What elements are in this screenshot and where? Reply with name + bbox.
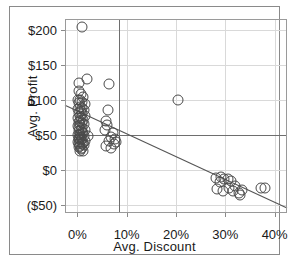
y-tick-label: ($50) [5, 197, 57, 212]
y-tick-label: $150 [5, 57, 57, 72]
x-tick-label: 40% [247, 227, 289, 242]
data-point [173, 94, 184, 105]
y-tick-mark [61, 65, 65, 66]
data-point [108, 139, 119, 150]
x-tick-mark [176, 213, 177, 217]
data-point [76, 22, 87, 33]
data-point [103, 79, 114, 90]
y-tick-label: $0 [5, 162, 57, 177]
y-tick-mark [61, 30, 65, 31]
y-tick-mark [61, 135, 65, 136]
y-tick-mark [61, 100, 65, 101]
y-tick-label: $50 [5, 127, 57, 142]
y-tick-label: $200 [5, 22, 57, 37]
x-tick-label: 10% [99, 227, 155, 242]
x-tick-mark [127, 213, 128, 217]
x-tick-mark [275, 213, 276, 217]
x-tick-label: 30% [197, 227, 253, 242]
y-tick-label: $100 [5, 92, 57, 107]
x-tick-label: 0% [49, 227, 105, 242]
y-tick-mark [61, 205, 65, 206]
data-point [235, 189, 246, 200]
trend-line [65, 19, 287, 213]
data-point [78, 146, 89, 157]
data-point [102, 105, 113, 116]
chart-outer-frame: Avg. Profit Avg. Discount $200$150$100$5… [9, 6, 280, 255]
scatter-plot-area: $200$150$100$50$0($50) 0%10%20%30%40% [65, 19, 287, 213]
data-point [81, 73, 92, 84]
y-tick-mark [61, 170, 65, 171]
x-tick-mark [77, 213, 78, 217]
x-tick-mark [225, 213, 226, 217]
data-point [260, 183, 271, 194]
x-tick-label: 20% [148, 227, 204, 242]
